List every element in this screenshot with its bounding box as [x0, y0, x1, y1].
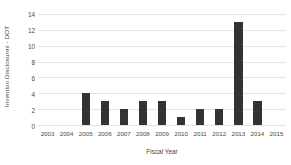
- x-axis-title: Fiscal Year: [38, 148, 286, 155]
- y-tick-label: 2: [31, 107, 35, 114]
- bar: [82, 93, 90, 125]
- bar: [177, 117, 185, 125]
- x-tick-label: 2009: [152, 130, 171, 137]
- y-tick-label: 0: [31, 123, 35, 130]
- y-tick-label: 14: [28, 11, 35, 18]
- bar-slot: [267, 14, 286, 125]
- bar-slot: [76, 14, 95, 125]
- y-axis-tick-labels: 02468101214: [14, 14, 38, 126]
- y-tick-label: 6: [31, 75, 35, 82]
- x-tick-label: 2011: [191, 130, 210, 137]
- x-tick-label: 2010: [172, 130, 191, 137]
- gridline: [38, 125, 286, 126]
- bar-slot: [133, 14, 152, 125]
- bar-slot: [210, 14, 229, 125]
- bar-slot: [114, 14, 133, 125]
- bar-slot: [229, 14, 248, 125]
- x-tick-label: 2007: [114, 130, 133, 137]
- bar-slot: [172, 14, 191, 125]
- bar: [120, 109, 128, 125]
- x-tick-label: 2014: [248, 130, 267, 137]
- x-tick-label: 2015: [267, 130, 286, 137]
- y-axis-title-text: Invention Disclosures - DOT: [4, 25, 11, 106]
- bar: [139, 101, 147, 125]
- bar: [196, 109, 204, 125]
- bar-slot: [152, 14, 171, 125]
- x-tick-label: 2004: [57, 130, 76, 137]
- x-tick-label: 2005: [76, 130, 95, 137]
- x-tick-label: 2012: [210, 130, 229, 137]
- y-tick-label: 4: [31, 91, 35, 98]
- x-axis-tick-labels: 2003200420052006200720082009201020112012…: [38, 130, 286, 137]
- bar-slot: [57, 14, 76, 125]
- x-tick-label: 2003: [38, 130, 57, 137]
- bar: [234, 22, 242, 125]
- y-tick-label: 8: [31, 59, 35, 66]
- x-tick-label: 2006: [95, 130, 114, 137]
- bar-chart-figure: Invention Disclosures - DOT 02468101214 …: [0, 0, 291, 165]
- bar-slot: [38, 14, 57, 125]
- bars-layer: [38, 14, 286, 125]
- y-tick-label: 12: [28, 27, 35, 34]
- plot-area: [38, 14, 286, 126]
- bar: [253, 101, 261, 125]
- y-tick-label: 10: [28, 43, 35, 50]
- bar: [101, 101, 109, 125]
- bar-slot: [248, 14, 267, 125]
- bar: [158, 101, 166, 125]
- x-tick-label: 2008: [133, 130, 152, 137]
- bar-slot: [95, 14, 114, 125]
- x-tick-label: 2013: [229, 130, 248, 137]
- bar: [215, 109, 223, 125]
- bar-slot: [191, 14, 210, 125]
- y-axis-title: Invention Disclosures - DOT: [0, 0, 14, 132]
